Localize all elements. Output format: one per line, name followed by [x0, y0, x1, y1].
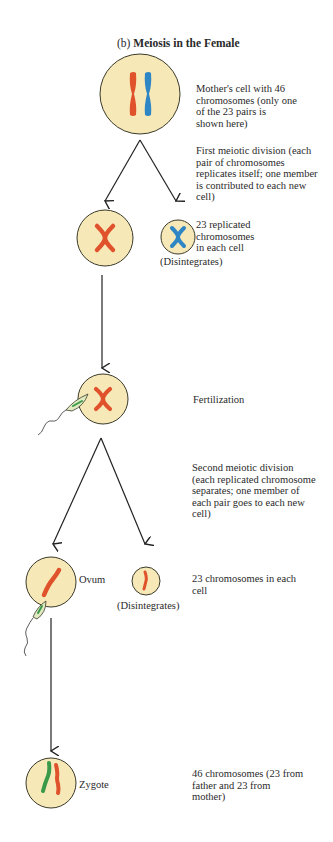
second-division-description: Second meiotic division (each replicated… — [192, 462, 316, 520]
replicated-description: 23 replicated chromosomes in each cell — [196, 219, 254, 254]
ovum-label: Ovum — [79, 574, 105, 586]
mother-cell-description: Mother's cell with 46 chromosomes (only … — [196, 83, 297, 129]
sperm-tail — [38, 410, 66, 435]
figure-title: (b) Meiosis in the Female — [117, 37, 240, 49]
disintegrates-label-2: (Disintegrates) — [117, 600, 179, 612]
second-division-arrows — [53, 438, 145, 544]
zygote-description: 46 chromosomes (23 from father and 23 fr… — [192, 768, 303, 803]
ovum-cell — [24, 557, 76, 656]
sperm-tail — [24, 618, 33, 656]
fertilization-description: Fertilization — [193, 394, 244, 406]
mother-cell — [100, 54, 180, 134]
secondary-oocyte-cell — [77, 210, 133, 266]
first-division-arrows — [105, 140, 176, 201]
first-division-description: First meiotic division (each pair of chr… — [196, 145, 318, 203]
title-prefix: (b) — [117, 37, 130, 49]
title-text: Meiosis in the Female — [133, 37, 239, 49]
fertilization-cell — [38, 374, 128, 435]
ovum-description: 23 chromosomes in each cell — [192, 573, 296, 596]
zygote-label: Zygote — [79, 779, 109, 791]
polar-body-1 — [161, 220, 195, 254]
polar-body-2 — [132, 567, 160, 595]
zygote-cell — [26, 758, 76, 808]
disintegrates-label-1: (Disintegrates) — [160, 256, 222, 268]
